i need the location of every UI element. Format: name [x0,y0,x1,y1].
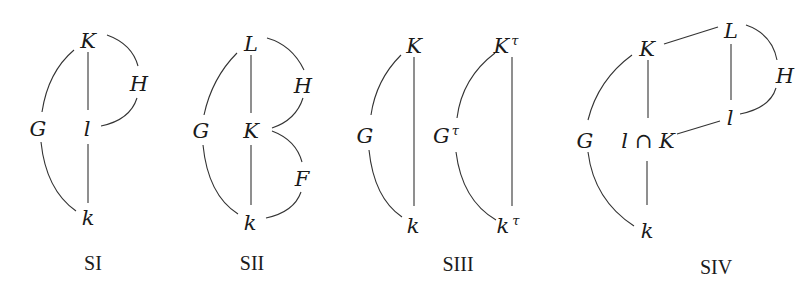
node-K-tau: Kτ [493,33,520,58]
caption-siii: SIII [442,253,473,275]
node-k-tau: kτ [497,213,521,238]
node-H: H [129,72,149,96]
caption-sii: SII [240,252,264,274]
node-l: l [84,117,91,141]
edge-G-k [203,145,238,214]
node-F: F [294,167,311,191]
edge-G-k [41,142,76,211]
node-G: G [577,129,594,153]
edge-H-K [272,98,303,128]
caption-si: SI [84,252,102,274]
caption-siv: SIV [700,256,733,278]
edge-K-G [371,55,401,115]
edge-G-k [369,150,402,217]
edge-L-H [267,38,304,70]
node-G-tau: Gτ [433,123,460,148]
node-K: K [638,37,656,61]
node-k: k [82,206,95,230]
node-H: H [775,64,795,88]
edge-Kt-Gt [457,53,495,118]
edge-L-H [746,25,777,60]
node-K: K [242,119,260,143]
field-lattice-diagrams: K H G l k SI L H G K F k SII K G k Kτ Gτ [0,0,812,288]
node-L: L [723,19,738,43]
edge-F-k [266,192,301,218]
node-G: G [357,124,374,148]
edge-Gt-kt [456,152,496,220]
edge-K-G [588,55,632,120]
diagram-siv: L K H l G l ∩ K k SIV [577,19,795,278]
node-L: L [243,32,258,56]
node-k: k [244,211,257,235]
node-K: K [79,29,97,53]
edge-l-lK [677,121,720,134]
node-k: k [407,214,420,238]
node-G: G [30,117,47,141]
diagram-si: K H G l k SI [30,29,149,274]
edge-H-l [740,88,776,114]
diagram-sii: L H G K F k SII [193,32,313,274]
edge-H-l [101,98,137,126]
node-k: k [641,219,654,243]
node-K: K [405,34,423,58]
edge-K-H [107,35,138,66]
edge-K-F [272,131,302,162]
node-l: l [727,106,734,130]
edge-L-K [664,27,718,44]
diagram-siii: K G k Kτ Gτ kτ SIII [357,33,521,275]
edge-G-k [588,152,634,226]
node-G: G [193,119,210,143]
edge-K-G [42,50,74,112]
edge-L-G [204,53,237,115]
node-H: H [293,74,313,98]
node-l-cap-K: l ∩ K [621,129,676,153]
